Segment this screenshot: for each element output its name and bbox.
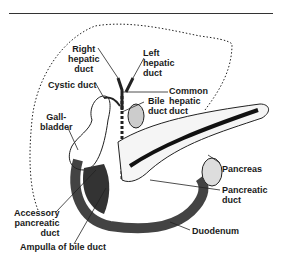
- left-hepatic-duct: [126, 78, 133, 92]
- label-accessory-pancreatic-duct: Accessory pancreatic duct: [14, 208, 60, 238]
- bile-duct-cross-section: [128, 104, 144, 128]
- label-bile-duct: Bile duct: [148, 96, 167, 116]
- gallbladder-shape: [69, 96, 110, 170]
- label-ampulla-of-bile-duct: Ampulla of bile duct: [20, 242, 106, 252]
- label-pancreatic-duct: Pancreatic duct: [222, 185, 268, 205]
- label-left-hepatic-duct: Left hepatic duct: [143, 48, 175, 78]
- label-duodenum: Duodenum: [192, 226, 239, 236]
- label-cystic-duct: Cystic duct: [48, 80, 97, 90]
- label-common-hepatic-duct: Common hepatic duct: [169, 86, 208, 116]
- label-gallbladder: Gall- bladder: [40, 112, 73, 132]
- label-pancreas: Pancreas: [222, 164, 262, 174]
- label-right-hepatic-duct: Right hepatic duct: [68, 44, 100, 74]
